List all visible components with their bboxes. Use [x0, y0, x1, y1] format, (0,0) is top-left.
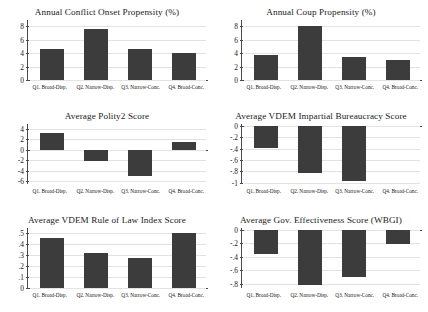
y-tick-mark [26, 171, 29, 172]
chart-title: Average Gov. Effectiveness Score (WBGI) [214, 215, 428, 225]
bar-slot [288, 22, 332, 80]
y-tick-label: 0 [20, 76, 24, 85]
bar-series [30, 126, 206, 184]
y-tick-label: -.4 [230, 144, 238, 153]
y-tick-mark [240, 26, 243, 27]
x-axis-label: Q1. Broad-Disp. [241, 292, 287, 298]
bar-slot [162, 126, 206, 184]
y-tick-label: -.2 [230, 133, 238, 142]
plot-area: 420-2-4-6 [30, 126, 206, 184]
chart-title: Annual Coup Propensity (%) [214, 7, 428, 17]
plot-canvas: .5.4.3.2.10 [30, 230, 206, 288]
x-axis-label: Q3. Narrow-Conc. [332, 292, 378, 298]
chart-grid: Annual Conflict Onset Propensity (%) 024… [0, 0, 428, 312]
x-axis-label: Q1. Broad-Disp. [27, 188, 73, 194]
chart-title: Average VDEM Rule of Law Index Score [0, 215, 214, 225]
bar-slot [30, 22, 74, 80]
bar [84, 150, 109, 161]
chart-panel-vdem-rule-of-law: Average VDEM Rule of Law Index Score .5.… [0, 208, 214, 312]
bar-slot [74, 22, 118, 80]
bar [342, 57, 367, 80]
x-axis-label: Q4. Broad-Conc. [378, 292, 424, 298]
chart-title: Average VDEM Impartial Bureaucracy Score [214, 111, 428, 121]
chart-panel-polity2: Average Polity2 Score 420-2-4-6 Q1. Broa… [0, 104, 214, 208]
chart-panel-gov-effectiveness: Average Gov. Effectiveness Score (WBGI) … [214, 208, 428, 312]
x-axis-labels: Q1. Broad-Disp.Q2. Narrow-Disp.Q3. Narro… [241, 188, 423, 194]
plot-canvas: 0-.2-.4-.6-.8-1 [244, 126, 420, 184]
bar-slot [244, 22, 288, 80]
bar-slot [162, 230, 206, 288]
x-axis-label: Q3. Narrow-Conc. [332, 84, 378, 90]
bar [128, 258, 153, 288]
bar [172, 142, 197, 150]
y-tick-mark [26, 67, 29, 68]
y-tick-mark [26, 26, 29, 27]
bar [254, 55, 279, 80]
y-tick-mark [26, 266, 29, 267]
bar [40, 133, 65, 150]
y-tick-label: -.6 [230, 156, 238, 165]
bar [84, 253, 109, 288]
y-tick-mark [240, 284, 243, 285]
y-tick-label: -6 [18, 176, 24, 185]
bar [298, 26, 323, 80]
x-axis-label: Q4. Broad-Conc. [164, 292, 210, 298]
y-tick-label: 2 [20, 135, 24, 144]
x-axis-label: Q1. Broad-Disp. [27, 84, 73, 90]
chart-panel-vdem-bureaucracy: Average VDEM Impartial Bureaucracy Score… [214, 104, 428, 208]
plot-canvas: 02468 [30, 22, 206, 80]
bar-series [30, 22, 206, 80]
bar-slot [118, 22, 162, 80]
y-tick-label: .2 [18, 262, 24, 271]
bar-slot [30, 230, 74, 288]
y-tick-mark [26, 255, 29, 256]
x-axis-label: Q1. Broad-Disp. [241, 188, 287, 194]
y-tick-label: 0 [234, 76, 238, 85]
bar [386, 60, 411, 80]
y-tick-mark [240, 171, 243, 172]
x-axis-label: Q2. Narrow-Disp. [287, 188, 333, 194]
x-axis-labels: Q1. Broad-Disp.Q2. Narrow-Disp.Q3. Narro… [241, 84, 423, 90]
y-tick-mark [240, 137, 243, 138]
bar [298, 230, 323, 285]
plot-area: 02468 [30, 22, 206, 80]
x-axis-label: Q2. Narrow-Disp. [73, 292, 119, 298]
y-tick-label: -.4 [230, 252, 238, 261]
x-axis-labels: Q1. Broad-Disp.Q2. Narrow-Disp.Q3. Narro… [27, 292, 209, 298]
bar-slot [244, 126, 288, 184]
grid-line [30, 288, 206, 289]
y-tick-mark [26, 129, 29, 130]
y-tick-mark [26, 181, 29, 182]
x-axis-label: Q2. Narrow-Disp. [287, 292, 333, 298]
bar-series [244, 126, 420, 184]
y-tick-mark [240, 80, 243, 81]
x-axis-label: Q4. Broad-Conc. [164, 188, 210, 194]
plot-canvas: 0-.2-.4-.6-.8 [244, 230, 420, 288]
y-tick-label: -1 [232, 178, 238, 187]
bar [40, 49, 65, 80]
bar [128, 49, 153, 80]
y-tick-label: -.2 [230, 239, 238, 248]
y-tick-mark [26, 160, 29, 161]
bar-slot [288, 126, 332, 184]
y-tick-mark [26, 277, 29, 278]
y-tick-mark [26, 139, 29, 140]
y-tick-mark [26, 150, 29, 151]
plot-area: 0-.2-.4-.6-.8 [244, 230, 420, 288]
y-tick-label: 8 [20, 22, 24, 31]
bar-slot [376, 126, 420, 184]
x-axis-label: Q2. Narrow-Disp. [73, 188, 119, 194]
bar [298, 126, 323, 173]
bar [254, 230, 279, 254]
y-tick-mark [26, 288, 29, 289]
bar [84, 29, 109, 80]
y-axis-line [27, 228, 28, 288]
y-tick-mark [240, 230, 243, 231]
y-tick-label: 2 [234, 62, 238, 71]
bar-slot [30, 126, 74, 184]
x-axis-labels: Q1. Broad-Disp.Q2. Narrow-Disp.Q3. Narro… [27, 188, 209, 194]
plot-area: 0-.2-.4-.6-.8-1 [244, 126, 420, 184]
chart-panel-conflict-onset: Annual Conflict Onset Propensity (%) 024… [0, 0, 214, 104]
y-tick-mark [240, 257, 243, 258]
y-tick-label: 0 [20, 284, 24, 293]
